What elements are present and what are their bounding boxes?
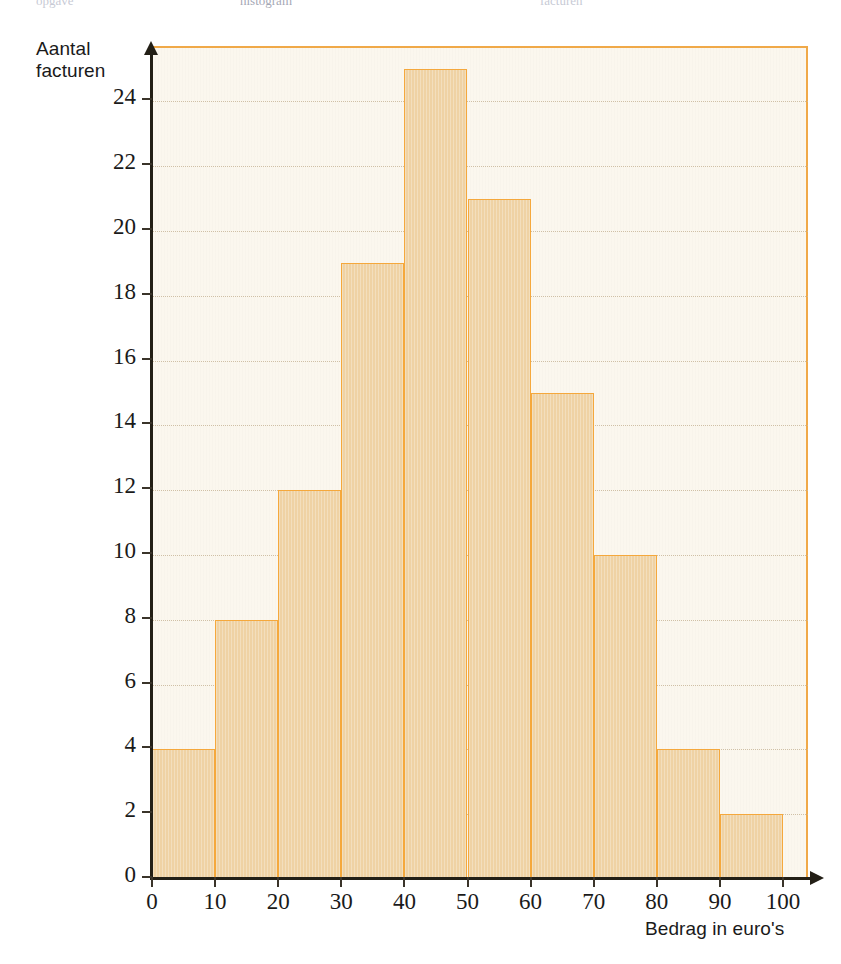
histogram-bar — [468, 199, 531, 879]
y-tick-label: 24 — [96, 84, 136, 110]
x-tick-label: 50 — [438, 889, 498, 915]
x-tick-label: 30 — [311, 889, 371, 915]
cut-off-text-right: facturen — [540, 0, 583, 9]
histogram-bar — [531, 393, 594, 879]
x-tick-label: 70 — [564, 889, 624, 915]
x-tick — [530, 877, 532, 887]
x-tick-label: 0 — [122, 889, 182, 915]
y-axis-title-line1: Aantal — [36, 38, 105, 60]
gridline — [152, 166, 808, 167]
y-tick — [142, 228, 152, 230]
x-tick — [467, 877, 469, 887]
figure-canvas: opgave histogram facturen Aantal facture… — [0, 0, 841, 964]
histogram-bar — [341, 263, 404, 879]
y-tick — [142, 617, 152, 619]
histogram-bar — [215, 620, 278, 879]
y-tick — [142, 422, 152, 424]
x-axis-title: Bedrag in euro's — [645, 918, 784, 940]
histogram-bar — [404, 69, 467, 879]
y-tick-label: 20 — [96, 214, 136, 240]
histogram-bar — [152, 749, 215, 879]
y-tick — [142, 811, 152, 813]
cut-off-text-left: opgave — [36, 0, 74, 9]
y-tick-label: 8 — [96, 603, 136, 629]
x-tick — [719, 877, 721, 887]
x-tick-label: 40 — [374, 889, 434, 915]
y-axis-title: Aantal facturen — [36, 38, 105, 82]
y-tick-label: 14 — [96, 408, 136, 434]
histogram-bar — [278, 490, 341, 879]
x-tick — [593, 877, 595, 887]
y-tick-label: 12 — [96, 473, 136, 499]
y-tick-label: 6 — [96, 668, 136, 694]
y-tick — [142, 358, 152, 360]
y-tick — [142, 552, 152, 554]
x-tick-label: 100 — [753, 889, 813, 915]
x-tick — [151, 877, 153, 887]
y-axis-title-line2: facturen — [36, 60, 105, 82]
gridline — [152, 101, 808, 102]
x-tick-label: 20 — [248, 889, 308, 915]
y-tick — [142, 163, 152, 165]
y-tick — [142, 746, 152, 748]
x-tick — [656, 877, 658, 887]
y-tick-label: 22 — [96, 149, 136, 175]
y-tick — [142, 98, 152, 100]
x-tick — [277, 877, 279, 887]
cut-off-header-text: opgave histogram facturen — [0, 0, 841, 11]
y-tick-label: 4 — [96, 732, 136, 758]
histogram-bar — [720, 814, 783, 879]
histogram-bar — [594, 555, 657, 879]
y-tick-label: 18 — [96, 279, 136, 305]
histogram-bar — [657, 749, 720, 879]
y-tick-label: 2 — [96, 797, 136, 823]
x-tick-label: 80 — [627, 889, 687, 915]
x-axis-line — [150, 877, 812, 880]
plot-area — [152, 46, 808, 877]
y-axis-line — [150, 52, 153, 880]
y-tick — [142, 682, 152, 684]
cut-off-text-middle: histogram — [240, 0, 292, 9]
x-tick-label: 10 — [185, 889, 245, 915]
x-tick — [214, 877, 216, 887]
y-tick — [142, 487, 152, 489]
x-tick — [782, 877, 784, 887]
x-tick-label: 60 — [501, 889, 561, 915]
y-axis-arrowhead-icon — [144, 41, 158, 55]
x-axis-arrowhead-icon — [810, 871, 824, 885]
x-tick — [403, 877, 405, 887]
y-tick-label: 16 — [96, 344, 136, 370]
x-tick-label: 90 — [690, 889, 750, 915]
y-tick-label: 10 — [96, 538, 136, 564]
x-tick — [340, 877, 342, 887]
y-tick-label: 0 — [96, 862, 136, 888]
y-tick — [142, 293, 152, 295]
